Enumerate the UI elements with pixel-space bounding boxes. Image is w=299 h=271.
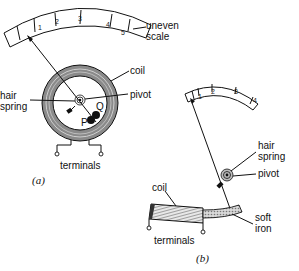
pivot-label-a: pivot	[130, 89, 151, 100]
terminals-a	[55, 140, 103, 156]
scale-b-tick-2: 2	[211, 88, 215, 95]
soft-iron-label-line1: soft	[255, 212, 271, 223]
scale-tick-1: 1	[38, 24, 42, 31]
terminals-label-b: terminals	[154, 235, 195, 246]
scale-tick-5: 5	[121, 29, 125, 36]
scale-b-tick-1: 1	[198, 93, 202, 100]
label-q: Q	[96, 101, 104, 112]
hair-spring-label-b-line1: hair	[258, 140, 275, 151]
scale-tick-2: 2	[55, 18, 59, 25]
scale-b-tick-3: 3	[234, 88, 238, 95]
terminals-label-a: terminals	[60, 160, 101, 171]
label-p: P	[81, 117, 88, 128]
scale-b-tick-4: 4	[253, 97, 257, 104]
soft-iron-label-line2: iron	[255, 223, 272, 234]
caption-a: (a)	[32, 174, 45, 187]
uneven-scale-label-line2: scale	[146, 31, 170, 42]
caption-b: (b)	[196, 252, 209, 265]
moving-iron-meter-diagram: 1 2 3 4 5 uneven scale P Q	[0, 0, 299, 271]
hair-spring-label-a-line2: spring	[0, 101, 27, 112]
scale-arc-b	[185, 84, 258, 110]
figure-a: 1 2 3 4 5 uneven scale P Q	[0, 8, 179, 187]
scale-tick-3: 3	[78, 15, 82, 22]
scale-tick-4: 4	[106, 21, 110, 28]
figure-b: 1 2 3 4 5 hair spring pivot coil soft ir…	[147, 84, 285, 265]
uneven-scale-label-line1: uneven	[146, 20, 179, 31]
coil-label-b: coil	[152, 182, 167, 193]
hair-spring-label-b-line2: spring	[258, 151, 285, 162]
pointer-b	[191, 100, 232, 214]
hair-spring-label-a-line1: hair	[0, 90, 17, 101]
iron-piece-p	[87, 116, 95, 124]
pivot-label-b: pivot	[258, 168, 279, 179]
coil-label-a: coil	[130, 65, 145, 76]
coil-block-b	[149, 204, 203, 223]
